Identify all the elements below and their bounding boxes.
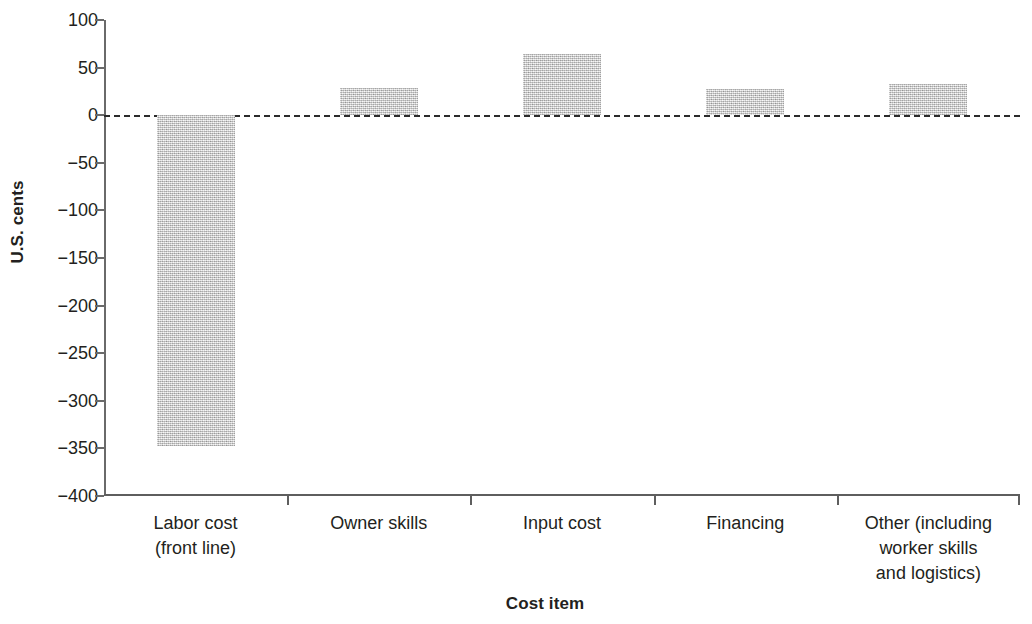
x-tick-mark bbox=[287, 494, 289, 505]
y-tick-label: −250 bbox=[8, 342, 98, 364]
y-tick-mark bbox=[95, 447, 104, 449]
y-tick-label: 50 bbox=[8, 57, 98, 79]
bar-chart: U.S. cents 100500−50−100−150−200−250−300… bbox=[0, 0, 1032, 624]
y-tick-label: −300 bbox=[8, 390, 98, 412]
bar bbox=[340, 88, 418, 116]
x-category-label: Input cost bbox=[470, 511, 653, 536]
y-tick-mark bbox=[95, 305, 104, 307]
y-tick-label: −400 bbox=[8, 485, 98, 507]
y-tick-mark bbox=[95, 162, 104, 164]
x-tick-mark bbox=[837, 494, 839, 505]
y-tick-mark bbox=[95, 257, 104, 259]
y-tick-mark bbox=[95, 400, 104, 402]
y-tick-label: 0 bbox=[8, 104, 98, 126]
bar bbox=[706, 89, 784, 115]
x-category-label: Other (includingworker skillsand logisti… bbox=[837, 511, 1020, 586]
bar bbox=[523, 54, 601, 115]
x-tick-mark bbox=[470, 494, 472, 505]
y-tick-mark bbox=[95, 495, 104, 497]
y-tick-mark bbox=[95, 67, 104, 69]
y-tick-label: 100 bbox=[8, 9, 98, 31]
x-axis-title: Cost item bbox=[445, 594, 645, 614]
y-tick-label: −200 bbox=[8, 295, 98, 317]
plot-area bbox=[104, 20, 1020, 496]
y-tick-mark bbox=[95, 209, 104, 211]
zero-reference-line bbox=[104, 115, 1020, 117]
x-axis-line bbox=[104, 494, 1020, 496]
x-category-label: Labor cost(front line) bbox=[104, 511, 287, 561]
y-tick-label: −50 bbox=[8, 152, 98, 174]
y-tick-label: −350 bbox=[8, 437, 98, 459]
x-axis-end-cap bbox=[1018, 494, 1020, 505]
y-tick-mark bbox=[95, 114, 104, 116]
y-tick-mark bbox=[95, 352, 104, 354]
x-category-label: Owner skills bbox=[287, 511, 470, 536]
y-tick-mark bbox=[95, 19, 104, 21]
bar bbox=[157, 115, 235, 446]
y-tick-label: −150 bbox=[8, 247, 98, 269]
bar bbox=[889, 84, 967, 115]
x-category-label: Financing bbox=[654, 511, 837, 536]
y-tick-label: −100 bbox=[8, 199, 98, 221]
x-tick-mark bbox=[654, 494, 656, 505]
